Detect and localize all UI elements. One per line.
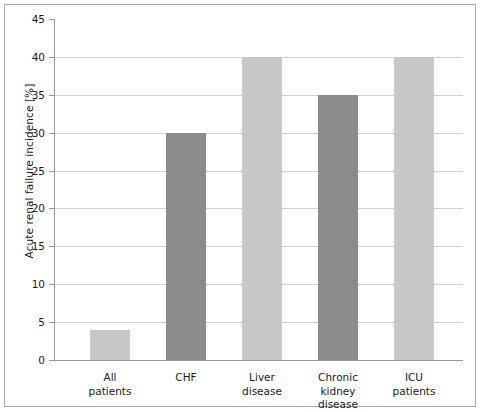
y-axis-tick-label: 35 [32,90,45,101]
x-axis-line [54,360,463,361]
y-axis-tick-label: 45 [32,14,45,25]
plot-area: 051015202530354045 All patientsCHFLiver … [54,15,463,364]
y-axis-tick-label: 5 [38,317,45,328]
bar [394,57,434,360]
y-axis-tick-label: 10 [32,279,45,290]
y-axis-tick [49,360,54,361]
bar [242,57,282,360]
bar [166,133,206,360]
bar-series [54,15,463,360]
y-axis-tick-label: 40 [32,52,45,63]
y-axis-tick-label: 25 [32,165,45,176]
bar [318,95,358,360]
y-axis-tick-label: 0 [38,355,45,366]
bar [90,330,130,360]
y-axis-tick-label: 20 [32,203,45,214]
y-axis-tick-label: 15 [32,241,45,252]
x-axis-category-label: ICU patients [359,371,469,398]
chart-figure: Acute renal failure incidence [%] 051015… [4,4,476,407]
y-axis-tick-label: 30 [32,127,45,138]
